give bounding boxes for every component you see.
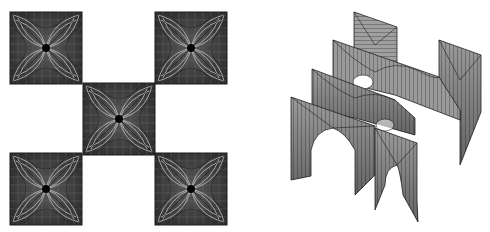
- vault-lattice-graphic: [245, 0, 490, 232]
- tile-top-right: [155, 12, 227, 84]
- tile-center: [83, 83, 155, 155]
- vault-panel-front-mid: [375, 128, 418, 222]
- axonometric-view-figure: [245, 0, 490, 232]
- tile-bottom-left: [10, 153, 82, 225]
- tile-top-left: [10, 12, 82, 84]
- top-view-figure: [0, 0, 245, 232]
- tile-pattern-graphic: [0, 0, 245, 232]
- tile-bottom-right: [155, 153, 227, 225]
